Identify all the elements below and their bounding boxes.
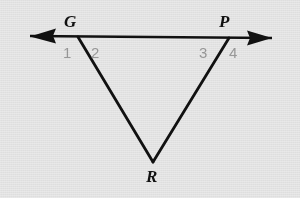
transversal-line — [30, 36, 272, 38]
arrow-head-left-icon — [30, 28, 56, 43]
angle-number-3: 3 — [199, 45, 207, 60]
angle-number-2: 2 — [91, 45, 99, 60]
vertex-label-P: P — [219, 13, 229, 30]
segment-GR — [78, 37, 153, 162]
geometry-figure: G P R 1 2 3 4 — [0, 0, 300, 198]
arrow-head-right-icon — [247, 30, 272, 45]
vertex-label-R: R — [146, 168, 157, 185]
angle-number-4: 4 — [229, 45, 237, 60]
angle-number-1: 1 — [63, 45, 71, 60]
vertex-label-G: G — [64, 13, 76, 30]
segment-PR — [153, 38, 229, 162]
